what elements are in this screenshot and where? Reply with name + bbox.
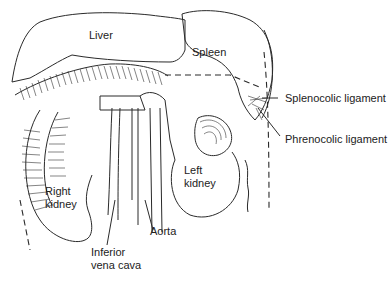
anatomy-diagram: Liver Spleen Splenocolic ligament Phreno… bbox=[0, 0, 391, 285]
label-ivc-line1: Inferior bbox=[91, 246, 125, 258]
label-left-kidney-line1: Left bbox=[184, 164, 202, 176]
dashed-line-left bbox=[20, 200, 30, 250]
label-liver: Liver bbox=[89, 29, 113, 41]
label-aorta: Aorta bbox=[150, 225, 176, 237]
label-phrenocolic-ligament: Phrenocolic ligament bbox=[285, 133, 387, 145]
dashed-line-right bbox=[264, 52, 269, 210]
leader-phrenocolic bbox=[258, 108, 280, 136]
label-right-kidney-line1: Right bbox=[45, 185, 71, 197]
label-splenocolic-ligament: Splenocolic ligament bbox=[285, 92, 386, 104]
dashed-line-upper bbox=[165, 75, 262, 88]
label-left-kidney-line2: kidney bbox=[184, 177, 216, 189]
label-ivc-line2: vena cava bbox=[91, 259, 141, 271]
label-right-kidney-line2: kidney bbox=[45, 198, 77, 210]
aorta-vessel bbox=[150, 108, 162, 232]
label-spleen: Spleen bbox=[192, 46, 226, 58]
spleen-outline bbox=[182, 11, 273, 120]
